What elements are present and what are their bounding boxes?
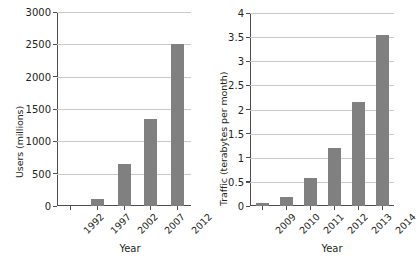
y-tick-label: 3000 [26,7,51,18]
y-tick-mark [53,44,57,45]
y-tick-mark [246,13,250,14]
bar [91,199,104,206]
x-tick-mark [334,206,335,210]
gridline [250,110,394,111]
chart-panel-users: Users (millions) Year 050010001500200025… [0,0,204,264]
x-tick-label: 2010 [297,211,322,236]
gridline [250,61,394,62]
y-tick-label: 4 [238,8,244,19]
x-tick-mark [150,206,151,210]
gridline [250,182,394,183]
x-tick-label: 2009 [273,211,298,236]
x-tick-label: 2002 [135,211,160,236]
y-tick-mark [246,37,250,38]
y-tick-label: 3 [238,56,244,67]
bar [171,44,184,206]
x-tick-label: 2013 [369,211,394,236]
bar [144,119,157,206]
y-tick-label: 1000 [26,136,51,147]
x-tick-label: 2007 [162,211,187,236]
y-tick-mark [53,109,57,110]
y-tick-mark [53,76,57,77]
y-tick-mark [246,181,250,182]
y-tick-label: 2000 [26,71,51,82]
bar [376,35,389,206]
gridline [250,85,394,86]
y-tick-label: 2.5 [228,80,244,91]
y-tick-label: 1.5 [228,128,244,139]
x-tick-label: 1997 [108,211,133,236]
y-tick-mark [246,206,250,207]
y-tick-label: 2 [238,104,244,115]
y-tick-label: 0 [45,201,51,212]
y-tick-mark [53,173,57,174]
gridline [250,13,394,14]
x-tick-mark [124,206,125,210]
x-tick-mark [177,206,178,210]
x-axis-title-users: Year [60,243,200,254]
x-tick-mark [310,206,311,210]
x-tick-label: 2011 [321,211,346,236]
x-tick-mark [286,206,287,210]
bar [328,148,341,206]
y-tick-label: 0.5 [228,176,244,187]
x-tick-mark [97,206,98,210]
y-tick-label: 0 [238,201,244,212]
x-tick-mark [262,206,263,210]
plot-area-traffic [250,13,394,206]
x-tick-mark [70,206,71,210]
y-axis-title-users: Users (millions) [14,106,25,178]
bar [304,178,317,206]
plot-area-users [57,12,191,206]
y-tick-label: 3.5 [228,32,244,43]
y-tick-mark [246,85,250,86]
x-tick-label: 1992 [81,211,106,236]
y-tick-label: 2500 [26,39,51,50]
x-tick-mark [382,206,383,210]
y-tick-mark [53,141,57,142]
y-tick-mark [246,133,250,134]
y-tick-label: 500 [32,168,51,179]
gridline [250,37,394,38]
gridline [250,158,394,159]
y-tick-mark [246,157,250,158]
x-tick-label: 2012 [345,211,370,236]
gridline [57,12,191,13]
chart-panel-traffic: Traffic (terabytes per month) 00.511.522… [204,0,408,264]
y-tick-label: 1500 [26,104,51,115]
bar [280,197,293,206]
x-axis-title-traffic: Year [262,243,402,254]
bar [118,164,131,206]
bar [352,102,365,206]
x-tick-label: 2014 [393,211,418,236]
y-tick-mark [246,61,250,62]
y-tick-mark [246,109,250,110]
y-tick-label: 1 [238,152,244,163]
y-tick-mark [53,206,57,207]
gridline [250,134,394,135]
y-tick-mark [53,12,57,13]
x-axis-line-traffic [250,205,394,206]
x-tick-mark [358,206,359,210]
